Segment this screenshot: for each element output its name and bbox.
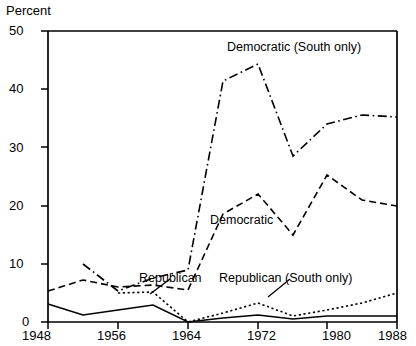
series-line-democratic (48, 175, 397, 291)
series-line-republican-south (118, 292, 397, 322)
leader-line-republican-south (268, 279, 290, 297)
series-line-democratic-south (83, 64, 397, 291)
chart-canvas (0, 0, 416, 346)
line-chart: Percent 50 40 30 20 10 0 1948 1956 1964 … (0, 0, 416, 346)
